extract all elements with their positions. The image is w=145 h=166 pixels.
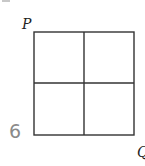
cropped-text-fragment [2,0,10,2]
vertex-label-q: Q [137,144,145,160]
diagram-canvas: P 6 Q [0,0,145,166]
vertex-label-p: P [21,16,32,32]
problem-number: 6 [9,120,21,142]
